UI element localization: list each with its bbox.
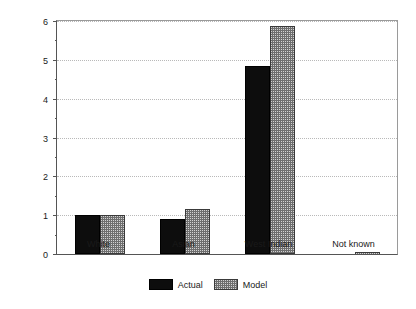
y-tick-minor	[55, 79, 58, 80]
y-gridline	[57, 99, 397, 100]
bar-not-known-model	[355, 252, 380, 254]
y-tick-major: 3	[53, 138, 57, 139]
y-gridline	[57, 176, 397, 177]
chart-legend: Actual Model	[0, 279, 416, 290]
y-tick-minor	[55, 196, 58, 197]
y-tick-major: 4	[53, 99, 57, 100]
y-tick-major: 6	[53, 21, 57, 22]
x-tick-label-west-indian: West Indian	[245, 239, 292, 249]
legend-label-model: Model	[243, 280, 268, 290]
legend-entry-model: Model	[214, 279, 268, 290]
y-tick-label: 1	[43, 211, 48, 221]
y-tick-label: 2	[43, 172, 48, 182]
x-tick-label-not-known: Not known	[332, 239, 375, 249]
y-tick-major: 5	[53, 60, 57, 61]
bar-chart-figure: Relative risk ratio (white=1) 0123456 Ac…	[0, 0, 416, 309]
legend-label-actual: Actual	[178, 280, 203, 290]
y-tick-minor	[55, 118, 58, 119]
legend-entry-actual: Actual	[149, 279, 203, 290]
y-tick-major: 0	[53, 254, 57, 255]
y-gridline	[57, 138, 397, 139]
y-tick-label: 0	[43, 250, 48, 260]
x-tick-label-asian: Asian	[172, 239, 195, 249]
y-tick-label: 5	[43, 56, 48, 66]
y-tick-minor	[55, 40, 58, 41]
bar-west-indian-model	[270, 26, 295, 254]
y-tick-major: 2	[53, 176, 57, 177]
y-tick-minor	[55, 235, 58, 236]
bar-west-indian-actual	[245, 66, 270, 254]
y-tick-major: 1	[53, 215, 57, 216]
y-tick-label: 6	[43, 17, 48, 27]
legend-swatch-model-icon	[214, 279, 238, 290]
y-gridline	[57, 60, 397, 61]
legend-swatch-actual-icon	[149, 279, 173, 290]
y-tick-minor	[55, 157, 58, 158]
y-gridline	[57, 21, 397, 22]
plot-area: 0123456	[56, 20, 398, 255]
y-tick-label: 4	[43, 95, 48, 105]
y-tick-label: 3	[43, 134, 48, 144]
plot-inner	[57, 21, 397, 254]
x-tick-label-white: White	[87, 239, 110, 249]
